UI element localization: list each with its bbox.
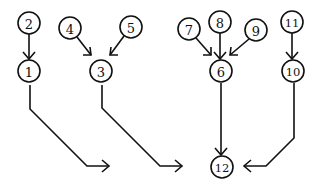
node-10: 10 [282,60,304,82]
node-label: 12 [215,161,230,175]
edge-8-to-6 [214,33,226,59]
edge-11-to-10 [286,33,298,59]
node-11: 11 [281,11,303,33]
node-7: 7 [178,18,200,40]
node-label: 7 [185,23,193,38]
node-label: 10 [286,65,301,79]
node-label: 5 [127,21,135,36]
node-label: 1 [25,65,33,80]
edge-1-to-12 [30,85,109,172]
node-4: 4 [59,17,81,39]
edge-4-to-3 [77,37,91,55]
edge-9-to-6 [230,39,249,55]
node-9: 9 [245,19,267,41]
edge-7-to-6 [196,38,211,55]
node-2: 2 [18,12,40,34]
edge-10-to-12 [244,83,294,172]
node-label: 3 [97,65,105,80]
edges [23,33,298,172]
node-label: 6 [217,65,225,80]
nodes: 1 2 3 4 5 6 7 8 [18,11,304,178]
tree-diagram: 1 2 3 4 5 6 7 8 [0,0,321,188]
node-label: 4 [66,22,74,37]
edge-2-to-1 [23,34,35,59]
node-3: 3 [90,60,112,82]
node-label: 2 [25,17,33,32]
edge-6-to-12 [215,83,227,155]
node-1: 1 [18,60,40,82]
node-12: 12 [211,156,233,178]
node-5: 5 [120,16,142,38]
node-label: 9 [252,24,260,39]
edge-5-to-3 [110,36,124,55]
edge-3-to-12 [102,85,182,172]
node-label: 8 [216,16,224,31]
node-label: 11 [285,16,300,30]
node-6: 6 [210,60,232,82]
node-8: 8 [209,11,231,33]
